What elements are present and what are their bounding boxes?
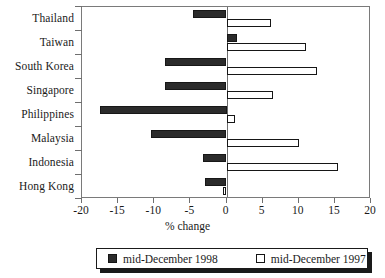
y-axis-category-labels: ThailandTaiwanSouth KoreaSingaporePhilip… (0, 6, 74, 198)
bar (151, 130, 227, 138)
bar (203, 154, 227, 162)
x-axis-tick (226, 198, 227, 203)
y-axis-tick (75, 198, 82, 199)
bar-group (82, 55, 369, 79)
x-axis-tick (153, 198, 154, 203)
y-axis-label: Philippines (21, 102, 74, 126)
legend-swatch-open-square-icon (256, 254, 265, 263)
y-axis-label: Indonesia (28, 150, 74, 174)
bar-group (82, 7, 369, 31)
y-axis-label: Taiwan (40, 30, 74, 54)
y-axis-label: Malaysia (31, 126, 74, 150)
bar-group (82, 127, 369, 151)
y-axis-tick (75, 78, 82, 79)
bar (193, 10, 227, 18)
bar (227, 115, 236, 123)
x-axis-tick-label: -5 (169, 204, 209, 216)
bar (205, 178, 227, 186)
bar (227, 67, 317, 75)
x-axis-tick-label: -20 (61, 204, 101, 216)
bar (227, 43, 306, 51)
x-axis-tick-label: 20 (350, 204, 385, 216)
bar (100, 106, 226, 114)
legend-label-1997: mid-December 1997 (271, 253, 366, 265)
bar-group (82, 103, 369, 127)
bar (223, 187, 227, 195)
y-axis-tick (75, 150, 82, 151)
y-axis-label: Singapore (26, 78, 74, 102)
bar-chart: ThailandTaiwanSouth KoreaSingaporePhilip… (0, 0, 385, 278)
bar-group (82, 31, 369, 55)
y-axis-tick (75, 126, 82, 127)
bar (227, 19, 272, 27)
x-axis-tick-label: -15 (97, 204, 137, 216)
x-axis-tick-label: 10 (278, 204, 318, 216)
legend-swatch-filled-square-icon (108, 254, 117, 263)
bar (165, 58, 226, 66)
x-axis-tick (189, 198, 190, 203)
bar (227, 91, 274, 99)
x-axis-tick (117, 198, 118, 203)
x-axis-tick-label: -10 (133, 204, 173, 216)
legend-item-1997: mid-December 1997 (256, 253, 366, 265)
y-axis-tick (75, 30, 82, 31)
x-axis-tick (334, 198, 335, 203)
y-axis-label: Hong Kong (19, 174, 74, 198)
x-axis-tick (298, 198, 299, 203)
x-axis-tick-label: 0 (206, 204, 246, 216)
bar (227, 34, 238, 42)
y-axis-tick (75, 6, 82, 7)
legend-label-1998: mid-December 1998 (123, 253, 218, 265)
x-axis-tick-label: 15 (314, 204, 354, 216)
y-axis-tick (75, 174, 82, 175)
y-axis-tick (75, 54, 82, 55)
x-axis-title: % change (0, 220, 385, 232)
x-axis-tick (370, 198, 371, 203)
y-axis-tick (75, 102, 82, 103)
bar (227, 139, 299, 147)
chart-legend: mid-December 1998 mid-December 1997 (96, 248, 368, 269)
y-axis-label: Thailand (32, 6, 74, 30)
plot-area (81, 6, 370, 198)
x-axis-tick (262, 198, 263, 203)
bar-group (82, 79, 369, 103)
bar (165, 82, 226, 90)
legend-item-1998: mid-December 1998 (108, 253, 218, 265)
bar-group (82, 151, 369, 175)
bar (227, 163, 339, 171)
bar-group (82, 175, 369, 199)
x-axis-title-text: % change (165, 220, 210, 232)
y-axis-label: South Korea (15, 54, 74, 78)
x-axis-tick-label: 5 (242, 204, 282, 216)
